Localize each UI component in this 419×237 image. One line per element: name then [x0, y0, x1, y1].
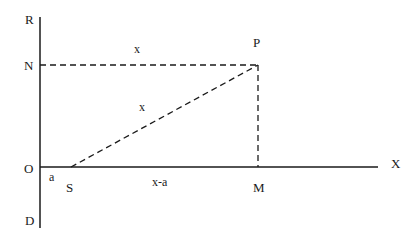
label-P: P: [253, 35, 260, 50]
label-SM-length: x-a: [152, 175, 168, 189]
label-NP-length: x: [134, 42, 140, 56]
label-O: O: [24, 161, 33, 176]
label-X: X: [391, 156, 401, 171]
label-N: N: [24, 58, 34, 73]
label-M: M: [253, 180, 265, 195]
label-OS-length: a: [49, 170, 55, 184]
label-R: R: [25, 12, 34, 27]
label-D: D: [25, 213, 34, 228]
geometry-diagram: R N O D P S M X x x a x-a: [0, 0, 419, 237]
dashed-line-SP: [71, 65, 258, 167]
label-SP-length: x: [139, 100, 145, 114]
label-S: S: [66, 180, 73, 195]
